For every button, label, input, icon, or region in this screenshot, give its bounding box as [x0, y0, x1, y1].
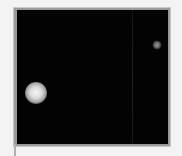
- small-faint-spot: [153, 41, 162, 50]
- image-viewport: [17, 10, 168, 144]
- frame-left-edge: [14, 144, 16, 156]
- large-bright-spot: [25, 82, 47, 104]
- page-canvas: [0, 0, 182, 156]
- vertical-streak: [132, 10, 133, 144]
